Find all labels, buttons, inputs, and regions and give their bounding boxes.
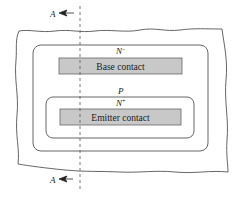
section-label-bottom: A (49, 175, 56, 185)
emitter-contact-label: Emitter contact (91, 113, 150, 123)
section-marker-top: A (49, 9, 74, 19)
arrow-left-icon (59, 176, 73, 182)
section-marker-bottom: A (49, 175, 73, 185)
arrow-left-icon (59, 10, 74, 16)
section-label-top: A (49, 9, 56, 19)
p-label: P (117, 86, 124, 96)
n-plus-label: N+ (115, 98, 126, 108)
base-contact-label: Base contact (96, 62, 145, 72)
bjt-top-view-diagram: A A N− P N+ Base contact Emitter contact (0, 0, 242, 198)
n-minus-label: N− (115, 46, 126, 56)
